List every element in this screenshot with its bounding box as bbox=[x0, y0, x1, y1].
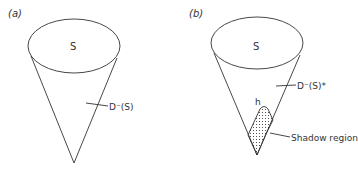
leader-line-b-domain bbox=[276, 85, 296, 86]
domain-label-b: D⁻(S)* bbox=[297, 81, 326, 91]
panel-a-label: (a) bbox=[8, 9, 22, 19]
surface-s-label-b: S bbox=[253, 42, 259, 52]
shadow-region-label: Shadow region bbox=[291, 133, 358, 143]
point-h-label: h bbox=[255, 97, 261, 107]
panel-b-label: (b) bbox=[189, 9, 203, 19]
leader-line-b-shadow bbox=[270, 133, 290, 137]
shadow-region-shape bbox=[248, 107, 273, 156]
leader-line-a bbox=[86, 103, 108, 106]
domain-label-a: D⁻(S) bbox=[109, 102, 133, 112]
surface-s-label-a: S bbox=[70, 42, 76, 52]
cone-b bbox=[211, 17, 303, 155]
